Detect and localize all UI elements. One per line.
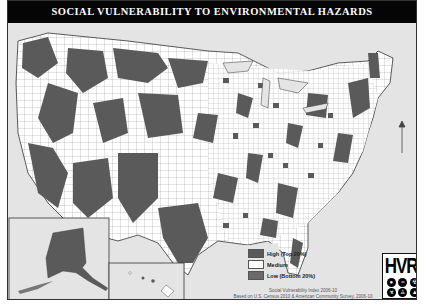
legend-swatch-high [248,249,264,258]
north-arrow-icon [399,121,405,153]
us-county-map [8,23,417,300]
map-title: SOCIAL VULNERABILITY TO ENVIRONMENTAL HA… [8,1,416,23]
legend-item-high: High (Top 20%) [248,249,315,258]
alaska-inset [9,218,109,300]
biohazard-icon: ☣ [387,288,396,297]
hvri-logo: HVRI ● ≈ ☢ ☣ ♙ ▲ [382,253,417,299]
legend-item-low: Low (Bottom 20%) [248,271,315,280]
legend-swatch-low [248,271,264,280]
radiation-icon: ☢ [410,278,417,287]
flood-icon: ≈ [398,278,407,287]
legend-swatch-medium [248,260,264,269]
fire-icon: ▲ [410,288,417,297]
map-frame: SOCIAL VULNERABILITY TO ENVIRONMENTAL HA… [7,0,417,300]
hazard-icon: ● [387,278,396,287]
footnote: Social Vulnerability Index 2006-10 Based… [218,288,388,300]
hawaii-inset [109,263,184,300]
person-icon: ♙ [398,288,407,297]
legend-item-medium: Medium [248,260,315,269]
map-legend: High (Top 20%) Medium Low (Bottom 20%) [248,249,315,282]
